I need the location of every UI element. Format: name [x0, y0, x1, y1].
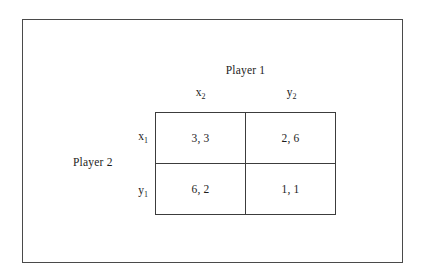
column-player-label: Player 1 — [155, 64, 336, 76]
payoff-matrix-figure: Player 1 Player 2 x2 y2 x1 y1 3, 3 2, 6 … — [0, 0, 423, 278]
payoff-matrix-grid: 3, 3 2, 6 6, 2 1, 1 — [155, 112, 336, 215]
column-strategy-subscript-0: 2 — [201, 92, 205, 101]
row-strategy-subscript-0: 1 — [144, 136, 148, 145]
row-strategy-label-x1: x1 — [118, 130, 148, 142]
payoff-cell-x1-x2: 3, 3 — [156, 113, 246, 164]
column-strategy-label-x2: x2 — [155, 86, 246, 98]
column-strategy-label-y2: y2 — [246, 86, 337, 98]
row-strategy-subscript-1: 1 — [144, 190, 148, 199]
row-strategy-label-y1: y1 — [118, 184, 148, 196]
payoff-cell-y1-y2: 1, 1 — [246, 164, 335, 214]
row-player-label: Player 2 — [73, 156, 113, 168]
payoff-cell-y1-x2: 6, 2 — [156, 164, 246, 214]
payoff-cell-x1-y2: 2, 6 — [246, 113, 335, 164]
column-strategy-subscript-1: 2 — [292, 92, 296, 101]
game-matrix-diagram: Player 1 Player 2 x2 y2 x1 y1 3, 3 2, 6 … — [0, 0, 423, 278]
